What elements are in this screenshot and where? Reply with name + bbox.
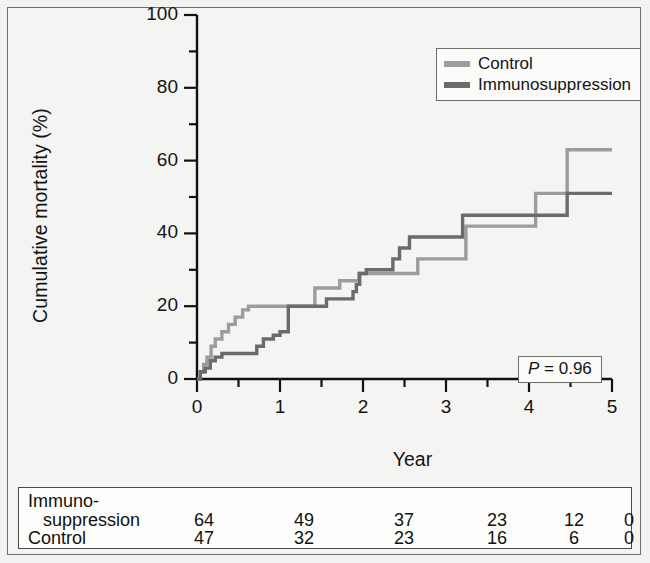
legend-item-control: Control	[444, 53, 631, 74]
risk-value-r1-c3: 16	[479, 528, 515, 549]
y-tick-label-60: 60	[126, 149, 178, 171]
legend-label-immunosuppression: Immunosuppression	[478, 75, 631, 95]
risk-value-r1-c2: 23	[386, 528, 422, 549]
y-tick-label-0: 0	[126, 367, 178, 389]
y-tick-label-100: 100	[126, 3, 178, 25]
x-tick-label-0: 0	[177, 396, 217, 418]
x-tick-label-3: 3	[426, 396, 466, 418]
x-tick-label-2: 2	[343, 396, 383, 418]
y-tick-label-20: 20	[126, 294, 178, 316]
p-value-text: = 0.96	[539, 359, 591, 378]
y-axis-title: Cumulative mortality (%)	[29, 66, 52, 366]
risk-value-r1-c5: 0	[611, 528, 647, 549]
legend: Control Immunosuppression	[436, 48, 641, 101]
plot-panel: Cumulative mortality (%) Year 0204060801…	[8, 8, 640, 470]
curves-group	[197, 150, 612, 379]
x-tick-label-4: 4	[509, 396, 549, 418]
curve-immunosuppression	[197, 193, 612, 379]
risk-value-r1-c1: 32	[286, 528, 322, 549]
y-tick-label-40: 40	[126, 221, 178, 243]
risk-row-label-0-line1: Immuno-	[28, 491, 99, 512]
p-value-annotation: P = 0.96	[518, 356, 602, 383]
x-tick-label-1: 1	[260, 396, 300, 418]
legend-swatch-control	[444, 61, 470, 67]
risk-row-label-1-line1: Control	[28, 528, 86, 549]
legend-swatch-immunosuppression	[444, 82, 470, 88]
numbers-at-risk-table: Immuno-suppression64493723120Control4732…	[18, 487, 632, 549]
p-symbol: P	[528, 359, 539, 378]
legend-item-immunosuppression: Immunosuppression	[444, 74, 631, 95]
y-tick-label-80: 80	[126, 76, 178, 98]
x-tick-label-5: 5	[592, 396, 632, 418]
x-axis-title: Year	[205, 448, 620, 471]
risk-value-r1-c4: 6	[556, 528, 592, 549]
risk-value-r1-c0: 47	[186, 528, 222, 549]
legend-label-control: Control	[478, 54, 533, 74]
figure-container: Cumulative mortality (%) Year 0204060801…	[0, 0, 650, 563]
